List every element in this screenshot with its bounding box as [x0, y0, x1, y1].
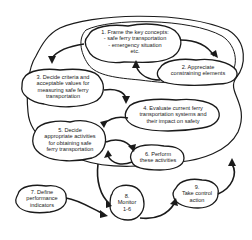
arrowhead-9-to-loop — [228, 158, 236, 166]
arrow-8-to-9 — [140, 204, 174, 218]
node-4-line-3: their impact on safety — [126, 118, 220, 124]
arrowhead-1-to-3 — [48, 56, 56, 64]
node-2-line-2: constraining elements — [160, 70, 236, 76]
node-7-label: 7. Define performance indicators — [16, 189, 68, 208]
node-9-label: 9. Take control action — [174, 184, 220, 203]
node-6-label: 6. Perform these activities — [132, 151, 184, 164]
arrow-1-to-2 — [180, 40, 214, 56]
arrow-6-to-5 — [108, 156, 132, 164]
arrow-7-to-8 — [66, 198, 104, 214]
node-8-label: 8. Monitor 1-6 — [110, 193, 144, 212]
arrow-5-to-8 — [98, 164, 111, 204]
arrowhead-3-to-4 — [122, 96, 130, 104]
node-3-label: 3. Decide criteria and acceptable values… — [22, 74, 104, 100]
arrow-5-to-6 — [106, 140, 132, 148]
node-1-label: 1. Frame the key concepts: - safe ferry … — [90, 29, 180, 55]
node-5-label: 5. Decide appropriate activities for obt… — [32, 127, 108, 153]
node-7-line-3: indicators — [16, 202, 68, 208]
node-4-label: 4. Evaluate current ferry transportation… — [126, 105, 220, 124]
node-6-line-2: these activities — [132, 157, 184, 163]
arrowhead-7-to-8 — [100, 210, 108, 218]
node-8-line-3: 1-6 — [110, 206, 144, 212]
node-1-line-4: etc. — [90, 48, 180, 54]
arrow-9-to-loop — [218, 164, 234, 194]
node-5-line-4: ferry transportation — [32, 146, 108, 152]
arrow-1-to-3 — [52, 44, 84, 58]
node-2-label: 2. Appreciate constraining elements — [160, 64, 236, 77]
node-3-line-4: transportation — [22, 93, 104, 99]
arrow-2-to-1 — [136, 66, 160, 80]
node-9-line-3: action — [174, 197, 220, 203]
node-4-line-2: transportation systems and — [126, 111, 220, 117]
